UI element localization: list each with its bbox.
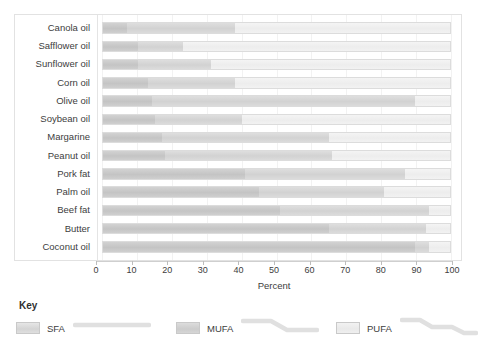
bar-segment-mufa[interactable]: [138, 42, 183, 52]
bar-segment-pufa[interactable]: [415, 96, 450, 106]
bar-segment-mufa[interactable]: [245, 169, 405, 179]
stacked-bar[interactable]: [102, 77, 451, 89]
legend-swatch-mufa: [176, 322, 200, 334]
table-row[interactable]: [97, 183, 461, 201]
x-axis-tick-label: 30: [198, 265, 208, 275]
bar-segment-pufa[interactable]: [426, 224, 450, 234]
bar-segment-sfa[interactable]: [103, 224, 329, 234]
bar-segment-mufa[interactable]: [162, 133, 329, 143]
category-row: Canola oil: [15, 19, 97, 37]
bar-segment-sfa[interactable]: [103, 206, 280, 216]
bar-segment-mufa[interactable]: [152, 96, 416, 106]
fatty-acid-chain-icon: [241, 316, 319, 340]
bar-segment-mufa[interactable]: [138, 60, 211, 70]
legend-swatch-pufa: [336, 322, 360, 334]
category-row: Safflower oil: [15, 37, 97, 55]
bar-segment-mufa[interactable]: [148, 78, 235, 88]
bar-segment-sfa[interactable]: [103, 151, 165, 161]
bar-segment-sfa[interactable]: [103, 96, 152, 106]
legend-item-pufa[interactable]: PUFA: [336, 316, 478, 340]
stacked-bar[interactable]: [102, 168, 451, 180]
table-row[interactable]: [97, 147, 461, 165]
x-axis-tick-label: 20: [162, 265, 172, 275]
table-row[interactable]: [97, 220, 461, 238]
bar-segment-pufa[interactable]: [242, 115, 450, 125]
x-axis-tick-label: 50: [269, 265, 279, 275]
category-axis: Canola oilSafflower oilSunflower oilCorn…: [15, 15, 98, 260]
category-label: Margarine: [47, 128, 90, 146]
x-axis-tick-label: 70: [340, 265, 350, 275]
legend-label: PUFA: [367, 323, 392, 334]
bar-segment-pufa[interactable]: [183, 42, 450, 52]
table-row[interactable]: [97, 74, 461, 92]
bar-segment-mufa[interactable]: [165, 151, 332, 161]
bar-segment-pufa[interactable]: [332, 151, 450, 161]
bar-segment-sfa[interactable]: [103, 169, 245, 179]
category-row: Olive oil: [15, 92, 97, 110]
category-label: Butter: [65, 220, 90, 238]
bar-segment-sfa[interactable]: [103, 242, 415, 252]
bar-segment-mufa[interactable]: [415, 242, 429, 252]
table-row[interactable]: [97, 238, 461, 256]
table-row[interactable]: [97, 165, 461, 183]
stacked-bar[interactable]: [102, 114, 451, 126]
bar-segment-mufa[interactable]: [329, 224, 426, 234]
bar-segment-sfa[interactable]: [103, 23, 127, 33]
bars-area: [97, 15, 461, 260]
x-axis-tick-label: 60: [305, 265, 315, 275]
x-axis-tick-label: 90: [411, 265, 421, 275]
stacked-bar[interactable]: [102, 132, 451, 144]
bar-segment-pufa[interactable]: [235, 78, 450, 88]
bar-segment-sfa[interactable]: [103, 115, 155, 125]
table-row[interactable]: [97, 201, 461, 219]
bar-segment-pufa[interactable]: [235, 23, 450, 33]
category-row: Pork fat: [15, 165, 97, 183]
table-row[interactable]: [97, 55, 461, 73]
bar-segment-pufa[interactable]: [384, 187, 450, 197]
category-label: Safflower oil: [38, 37, 90, 55]
table-row[interactable]: [97, 110, 461, 128]
table-row[interactable]: [97, 128, 461, 146]
category-row: Coconut oil: [15, 238, 97, 256]
stacked-bar[interactable]: [102, 41, 451, 53]
bar-segment-pufa[interactable]: [211, 60, 450, 70]
bar-segment-mufa[interactable]: [259, 187, 384, 197]
stacked-bar[interactable]: [102, 59, 451, 71]
bar-segment-pufa[interactable]: [329, 133, 450, 143]
bar-segment-pufa[interactable]: [405, 169, 450, 179]
legend-item-mufa[interactable]: MUFA: [176, 316, 319, 340]
table-row[interactable]: [97, 37, 461, 55]
stacked-bar[interactable]: [102, 150, 451, 162]
legend-item-sfa[interactable]: SFA: [16, 316, 151, 340]
legend: Key SFAMUFAPUFA: [16, 300, 469, 344]
bar-segment-pufa[interactable]: [429, 242, 450, 252]
table-row[interactable]: [97, 92, 461, 110]
stacked-bar[interactable]: [102, 95, 451, 107]
bar-segment-sfa[interactable]: [103, 60, 138, 70]
bar-segment-sfa[interactable]: [103, 133, 162, 143]
plot-panel: Canola oilSafflower oilSunflower oilCorn…: [14, 14, 462, 261]
bar-segment-sfa[interactable]: [103, 42, 138, 52]
category-row: Margarine: [15, 128, 97, 146]
stacked-bar[interactable]: [102, 223, 451, 235]
legend-label: MUFA: [207, 323, 233, 334]
x-axis-tick-label: 40: [233, 265, 243, 275]
stacked-bar[interactable]: [102, 241, 451, 253]
table-row[interactable]: [97, 19, 461, 37]
stacked-bar[interactable]: [102, 186, 451, 198]
legend-items: SFAMUFAPUFA: [16, 316, 469, 342]
category-label: Peanut oil: [48, 147, 90, 165]
stacked-bar[interactable]: [102, 205, 451, 217]
bar-segment-sfa[interactable]: [103, 78, 148, 88]
category-row: Corn oil: [15, 74, 97, 92]
category-label: Pork fat: [57, 165, 90, 183]
bar-segment-pufa[interactable]: [429, 206, 450, 216]
category-row: Palm oil: [15, 183, 97, 201]
stacked-bar[interactable]: [102, 22, 451, 34]
x-axis-title: Percent: [96, 280, 452, 291]
bar-segment-mufa[interactable]: [155, 115, 242, 125]
bar-segment-sfa[interactable]: [103, 187, 259, 197]
bar-segment-mufa[interactable]: [280, 206, 429, 216]
bar-segment-mufa[interactable]: [127, 23, 235, 33]
